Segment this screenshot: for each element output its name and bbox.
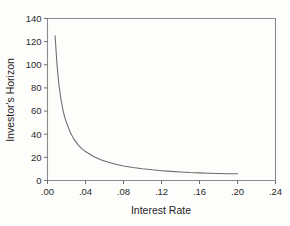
y-tick-label: 40 [31,129,42,140]
x-axis-tick-labels: .00.04.08.12.16.20.24 [41,186,282,197]
y-tick-label: 100 [26,59,42,70]
x-tick-label: .04 [79,186,92,197]
y-tick-label: 140 [26,13,42,24]
y-axis-title: Investor's Horizon [4,58,16,142]
y-tick-label: 0 [36,175,41,186]
x-tick-label: .00 [41,186,54,197]
x-tick-label: .08 [117,186,130,197]
chart-figure: .00.04.08.12.16.20.24 020406080100120140… [0,0,290,226]
plot-frame-border [48,19,276,181]
y-tick-label: 80 [31,82,42,93]
y-tick-label: 20 [31,152,42,163]
y-axis-tick-labels: 020406080100120140 [26,13,42,186]
y-tick-label: 60 [31,105,42,116]
x-tick-label: .20 [231,186,244,197]
x-tick-label: .24 [269,186,282,197]
x-tick-label: .16 [193,186,206,197]
y-tick-label: 120 [26,36,42,47]
x-axis-title: Interest Rate [131,204,191,216]
plot-frame [48,19,276,181]
chart-canvas: .00.04.08.12.16.20.24 020406080100120140… [0,0,290,226]
investors-horizon-curve [55,36,237,174]
data-series-group [55,36,237,174]
x-tick-label: .12 [155,186,168,197]
